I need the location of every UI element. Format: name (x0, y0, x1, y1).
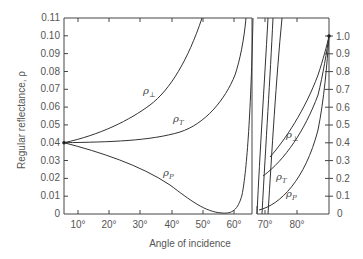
x-tick-label: 20° (101, 219, 116, 230)
y-tick-label: 1.0 (336, 31, 350, 42)
x-tick-label: 80° (289, 219, 304, 230)
y-tick-label: 0.10 (41, 30, 61, 41)
curve-rho-t-right (263, 36, 329, 176)
start-point-dot (62, 141, 66, 145)
left-y-ticks (64, 36, 68, 196)
y-tick-label: 0.2 (336, 173, 350, 184)
reflectance-chart: 0 0.01 0.02 0.03 0.04 0.05 0.06 0.07 0.0… (0, 0, 363, 259)
y-tick-label: 0.04 (41, 137, 61, 148)
label-rho-perp-right: ρ⊥ (285, 129, 298, 143)
y-tick-label: 0.08 (41, 66, 61, 77)
y-tick-label: 0.8 (336, 66, 350, 77)
y-tick-label: 0.3 (336, 155, 350, 166)
y-tick-label: 0.7 (336, 84, 350, 95)
x-tick-label: 40° (164, 219, 179, 230)
y-tick-label: 0.1 (336, 190, 350, 201)
y-tick-label: 0.07 (41, 83, 61, 94)
label-rho-perp-left: ρ⊥ (142, 85, 155, 99)
x-axis-title: Angle of incidence (149, 238, 231, 249)
curve-steep-2 (262, 18, 273, 214)
x-tick-label: 10° (70, 219, 85, 230)
curve-steep-3 (268, 18, 282, 214)
label-rho-t-left: ρT (172, 113, 185, 127)
left-curves (62, 18, 253, 213)
x-tick-label: 30° (132, 219, 147, 230)
y-tick-label: 0.02 (41, 172, 61, 183)
curve-rho-p-left (64, 18, 253, 213)
right-steep-lines (257, 18, 282, 214)
right-y-tick-labels: 0 0.1 0.2 0.3 0.4 0.5 0.6 0.7 0.8 0.9 1.… (336, 31, 350, 219)
left-panel (64, 18, 252, 214)
x-tick-labels: 10° 20° 30° 40° 50° 60° 70° 80° (70, 219, 304, 230)
label-rho-t-right: ρT (275, 171, 288, 185)
y-tick-label: 0.9 (336, 48, 350, 59)
x-tick-label: 60° (226, 219, 241, 230)
y-tick-label: 0.06 (41, 101, 61, 112)
y-tick-label: 0.4 (336, 137, 350, 148)
x-tick-label: 70° (257, 219, 272, 230)
curve-steep-1 (257, 18, 268, 214)
y-axis-title: Regular reflectance, ρ (16, 71, 27, 169)
y-tick-label: 0.05 (41, 119, 61, 130)
end-point-dot (327, 34, 331, 38)
label-rho-p-right: ρP (285, 188, 297, 202)
label-rho-p-left: ρP (162, 167, 174, 181)
y-tick-label: 0.09 (41, 48, 61, 59)
y-tick-label: 0 (54, 208, 60, 219)
y-tick-label: 0.6 (336, 102, 350, 113)
y-tick-label: 0 (337, 208, 343, 219)
y-tick-label: 0.01 (41, 190, 61, 201)
y-tick-label: 0.11 (41, 12, 60, 23)
left-y-tick-labels: 0 0.01 0.02 0.03 0.04 0.05 0.06 0.07 0.0… (41, 12, 61, 219)
y-tick-label: 0.5 (336, 119, 350, 130)
curve-rho-t-left (64, 18, 246, 143)
left-panel-frame (64, 18, 252, 214)
x-tick-label: 50° (195, 219, 210, 230)
y-tick-label: 0.03 (41, 155, 61, 166)
